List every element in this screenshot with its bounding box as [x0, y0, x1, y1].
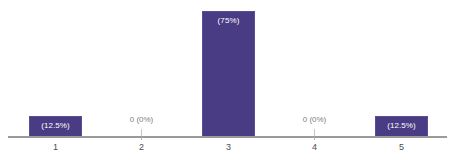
bar-label-4: 0 (0%) [282, 115, 347, 124]
x-axis-label-5: 5 [375, 142, 428, 152]
bar-label-1: (12.5%) [29, 121, 82, 130]
bar-chart: (12.5%) 0 (0%) (75%) 0 (0%) (12.5%) 1 2 … [0, 0, 454, 158]
x-axis-line [8, 136, 447, 138]
plot-area: (12.5%) 0 (0%) (75%) 0 (0%) (12.5%) [0, 0, 454, 137]
bar-group-2[interactable]: 0 (0%) [115, 0, 168, 137]
x-axis-label-1: 1 [29, 142, 82, 152]
x-axis-label-3: 3 [202, 142, 255, 152]
bar-label-5: (12.5%) [375, 121, 428, 130]
bar-group-4[interactable]: 0 (0%) [288, 0, 341, 137]
bar-group-1[interactable]: (12.5%) [29, 0, 82, 137]
bar-label-2: 0 (0%) [109, 115, 174, 124]
x-axis-tick-4 [314, 137, 315, 140]
bar-label-3: (75%) [202, 16, 255, 25]
bar-3[interactable] [202, 11, 255, 137]
x-axis-label-2: 2 [115, 142, 168, 152]
bar-group-3[interactable]: (75%) [202, 0, 255, 137]
bar-group-5[interactable]: (12.5%) [375, 0, 428, 137]
x-axis-tick-2 [141, 137, 142, 140]
x-axis-label-4: 4 [288, 142, 341, 152]
